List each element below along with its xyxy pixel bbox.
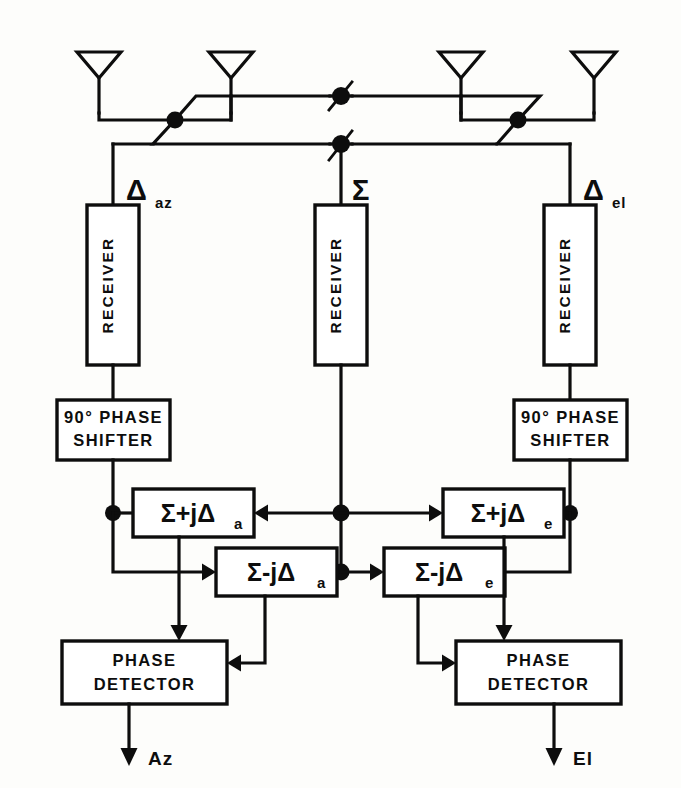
receiver-el-label: RECEIVER <box>556 237 573 334</box>
phase-shifter-el: 90° PHASE SHIFTER <box>514 400 627 460</box>
center-junction-lower <box>332 135 350 153</box>
wire-combiner0-to-detector-left <box>171 537 188 641</box>
combiner-2-sub: e <box>544 515 552 532</box>
arrow-output-el <box>546 748 563 766</box>
combiner-0-expr: Σ+jΔ <box>161 499 216 527</box>
arrow-detector-right-side <box>442 655 456 672</box>
receiver-az-label: RECEIVER <box>99 237 116 334</box>
delta-az-symbol: Δ <box>126 174 147 206</box>
combiner-sum-plus-j-delta-a: Σ+jΔ a <box>133 489 254 537</box>
arrow-detector-left-side <box>227 655 241 672</box>
arrow-detector-left-top <box>171 625 188 641</box>
delta-el-subscript: el <box>612 194 627 211</box>
phase-detector-el-line2: DETECTOR <box>488 675 590 693</box>
antenna-1 <box>77 52 121 113</box>
phase-detector-az: PHASE DETECTOR <box>62 641 227 704</box>
arrow-into-sum-minus-j-delta-e-from-sum <box>370 564 384 581</box>
combiner-sum-minus-j-delta-e: Σ-jΔ e <box>384 548 505 596</box>
combiner-2-expr: Σ+jΔ <box>471 499 526 527</box>
center-coupler-upper <box>329 82 352 110</box>
output-az-label: Az <box>148 748 173 769</box>
phase-shifter-az-line2: SHIFTER <box>73 431 153 449</box>
output-el-label: El <box>573 748 593 769</box>
arrow-into-sum-plus-j-delta-a <box>254 505 268 522</box>
combiner-sum-minus-j-delta-a: Σ-jΔ a <box>216 548 337 596</box>
schematic-canvas: Δ az Σ Δ el RECEIVER RECEIVER RECEIVER 9… <box>0 0 681 788</box>
port-label-sum: Σ <box>352 174 369 206</box>
receiver-el: RECEIVER <box>544 205 596 365</box>
monopulse-block-diagram: Δ az Σ Δ el RECEIVER RECEIVER RECEIVER 9… <box>0 0 681 788</box>
arrow-into-sum-minus-j-delta-a <box>202 564 216 581</box>
phase-shifter-el-line1: 90° PHASE <box>521 408 620 426</box>
sum-fanout-upper <box>254 505 443 522</box>
coupler-junction-left <box>167 112 184 129</box>
arrow-output-az <box>121 748 138 766</box>
phase-shifter-el-line2: SHIFTER <box>530 431 610 449</box>
coupler-junction-right <box>510 112 527 129</box>
phase-shifter-az-line1: 90° PHASE <box>64 408 163 426</box>
phase-detector-az-line1: PHASE <box>113 651 177 669</box>
delta-az-subscript: az <box>155 194 173 211</box>
antenna-4 <box>572 52 616 113</box>
receiver-az: RECEIVER <box>87 205 139 365</box>
center-coupler-lower <box>329 131 352 205</box>
combiner-1-expr: Σ-jΔ <box>247 558 295 586</box>
right-hybrid-coupler <box>352 96 594 144</box>
output-az: Az <box>121 704 174 769</box>
receiver-sum: RECEIVER <box>315 205 367 365</box>
wire-combiner1-to-detector-left <box>227 596 265 672</box>
phase-shifter-az: 90° PHASE SHIFTER <box>57 400 170 460</box>
arrow-into-sum-plus-j-delta-e <box>429 505 443 522</box>
center-junction-upper <box>332 87 350 105</box>
combiner-3-expr: Σ-jΔ <box>415 558 463 586</box>
sum-symbol: Σ <box>352 174 369 206</box>
phase-detector-el-line1: PHASE <box>507 651 571 669</box>
phase-detector-az-line2: DETECTOR <box>94 675 196 693</box>
output-el: El <box>546 704 593 769</box>
phase-detector-el: PHASE DETECTOR <box>456 641 621 704</box>
delta-el-symbol: Δ <box>583 174 604 206</box>
left-hybrid-coupler <box>99 96 330 144</box>
combiner-sum-plus-j-delta-e: Σ+jΔ e <box>443 489 564 537</box>
combiner-1-sub: a <box>317 574 326 591</box>
arrow-detector-right-top <box>496 625 513 641</box>
wire-combiner3-to-detector-right <box>418 596 456 672</box>
combiner-3-sub: e <box>485 574 493 591</box>
receiver-sum-label: RECEIVER <box>327 237 344 334</box>
combiner-0-sub: a <box>234 515 243 532</box>
